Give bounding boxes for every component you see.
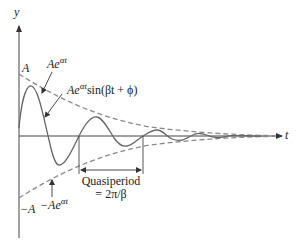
quasiperiod-label: Quasiperiod <box>82 174 141 188</box>
damped-oscillation-figure: y t A −A Aeαt Aeαtsin(βt + ϕ) −Aeαt Quas… <box>0 0 302 249</box>
solution-pointer <box>45 94 62 117</box>
t-axis-label: t <box>285 128 289 142</box>
upper-envelope-curve <box>19 74 275 136</box>
quasiperiod-formula: = 2π/β <box>95 187 126 201</box>
lower-envelope-label: −Aeαt <box>40 196 68 212</box>
lower-envelope-curve <box>19 136 275 198</box>
neg-a-intercept-label: −A <box>20 202 36 216</box>
solution-label: Aeαtsin(βt + ϕ) <box>66 81 137 97</box>
upper-envelope-label: Aeαt <box>46 55 67 71</box>
y-axis-label: y <box>13 5 20 19</box>
a-intercept-label: A <box>21 61 30 75</box>
